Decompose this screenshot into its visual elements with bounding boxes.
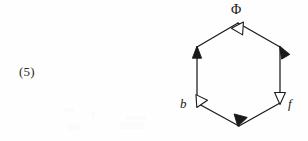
hexagon-diagram [0, 0, 308, 141]
edge-lower-left-diagonal [197, 103, 239, 126]
vertex-label-phi: Φ [231, 2, 241, 18]
edge-upper-left-diagonal [197, 23, 238, 47]
vertex-label-f: f [288, 96, 292, 112]
arrowhead-solid-upper-left [192, 46, 201, 58]
arrowhead-hollow-top [231, 22, 248, 38]
arrowhead-hollow-lower-right [275, 93, 286, 105]
vertex-label-b: b [180, 96, 187, 112]
edge-lower-right-diagonal [239, 103, 280, 126]
edge-upper-right-diagonal [238, 23, 280, 47]
figure-page: (5) Φ b f [0, 0, 308, 141]
